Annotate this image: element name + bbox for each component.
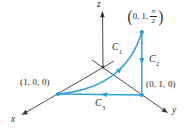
point-0-1-0-dot <box>140 93 144 97</box>
x-axis-label: x <box>11 115 15 125</box>
point-1-0-0-dot <box>56 92 60 96</box>
pi-over-2-fraction: π 2 <box>150 7 157 25</box>
point-0-1-0-label: (0, 1, 0) <box>146 80 176 89</box>
top-label-coords: 0, 1, <box>133 11 148 21</box>
open-paren: ( <box>127 8 132 25</box>
vector-calculus-figure: z ( 0, 1, π 2 ) C1 C2 C3 (1, 0, 0) (0, 1… <box>0 0 189 135</box>
x-axis-arrowhead <box>20 110 28 117</box>
curve-c3-subscript: 3 <box>102 104 105 111</box>
curve-c1-label: C1 <box>112 42 122 52</box>
curve-c2-letter: C <box>149 53 156 64</box>
curve-c3-letter: C <box>95 97 102 108</box>
fraction-denominator: 2 <box>152 17 156 25</box>
y-axis-label: y <box>172 106 176 116</box>
curve-c1-subscript: 1 <box>119 48 122 55</box>
z-axis-arrowhead <box>100 11 105 17</box>
curve-c3-label: C3 <box>95 98 105 108</box>
curve-c2-label: C2 <box>149 54 159 64</box>
point-1-0-0-label: (1, 0, 0) <box>20 78 50 87</box>
curve-c2-arrowhead <box>139 58 144 64</box>
fraction-numerator: π <box>150 8 157 17</box>
curve-c2-subscript: 2 <box>156 60 159 67</box>
point-0-1-pi2-dot <box>140 30 144 34</box>
point-0-1-pi2-label: ( 0, 1, π 2 ) <box>127 5 163 27</box>
z-axis-label: z <box>97 0 101 10</box>
curve-c3 <box>58 94 142 95</box>
curve-c1-letter: C <box>112 41 119 52</box>
close-paren: ) <box>158 8 163 25</box>
origin-dot <box>102 66 105 69</box>
y-axis-arrowhead <box>162 107 170 114</box>
curve-c1 <box>58 32 142 94</box>
